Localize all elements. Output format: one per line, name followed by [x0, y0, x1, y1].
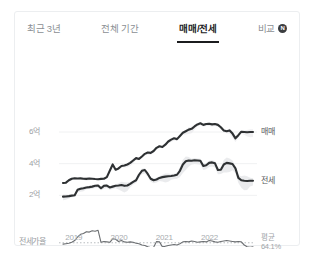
tab-label: 비교	[258, 23, 275, 35]
jeonse-ratio-axis-label: 전세가율	[19, 237, 46, 247]
tab-recent-3-years[interactable]: 최근 3년	[27, 23, 60, 35]
average-label: 평균	[261, 233, 274, 242]
tab-compare[interactable]: 비교 N	[258, 23, 287, 35]
x-tick-label-2020: 2020	[111, 233, 128, 243]
x-tick-label-2019: 2019	[65, 233, 82, 243]
active-tab-underline	[177, 41, 218, 43]
chart-plot-area: 6억 4억 2억 전세가율 매매 전세 평균 64.1% 2019 2020 2…	[15, 53, 301, 247]
chart-range-bands	[63, 122, 253, 200]
tab-label: 전체 기간	[101, 23, 138, 35]
x-tick-label-2022: 2022	[201, 233, 218, 243]
tab-full-period[interactable]: 전체 기간	[101, 23, 138, 35]
x-tick-label-2021: 2021	[156, 233, 173, 243]
y-tick-label-6: 6억	[29, 127, 40, 137]
tab-sale-jeonse[interactable]: 매매/전세	[179, 23, 216, 35]
series-label-jeonse: 전세	[261, 176, 274, 186]
tab-label: 매매/전세	[179, 23, 216, 35]
chart-tab-bar: 최근 3년 전체 기간 매매/전세 비교 N	[15, 12, 299, 45]
chart-svg	[15, 53, 301, 247]
y-tick-label-2: 2억	[29, 190, 40, 200]
tab-label: 최근 3년	[27, 23, 60, 35]
series-label-sale: 매매	[261, 127, 274, 137]
average-value: 64.1%	[261, 242, 281, 251]
market-price-chart-card: 최근 3년 전체 기간 매매/전세 비교 N 6억 4억 2억 전세가율 매매	[14, 11, 300, 246]
y-tick-label-4: 4억	[29, 159, 40, 169]
naver-n-badge-icon: N	[278, 24, 287, 33]
